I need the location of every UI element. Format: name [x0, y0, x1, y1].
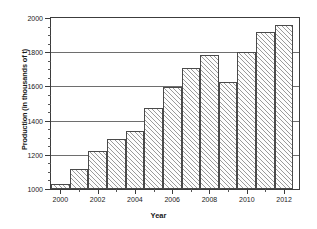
bar-2006: [163, 87, 182, 189]
x-tick-2012: [284, 189, 285, 194]
x-tick-2000: [60, 189, 61, 194]
y-tick-1000: [45, 189, 51, 190]
y-tick-label-1600: 1600: [27, 83, 43, 90]
bar-2002: [88, 151, 107, 189]
y-tick-label-1000: 1000: [27, 186, 43, 193]
bar-chart-figure: Production (in thousands of t) Year 1000…: [0, 0, 317, 229]
bar-2012: [275, 25, 294, 189]
x-tick-2010: [247, 189, 248, 194]
x-tick-minor-2007: [191, 189, 192, 192]
x-tick-2002: [98, 189, 99, 194]
bar-2001: [70, 169, 89, 189]
x-tick-2004: [135, 189, 136, 194]
y-tick-label-1200: 1200: [27, 151, 43, 158]
x-tick-minor-2003: [116, 189, 117, 192]
bar-2004: [126, 131, 145, 189]
bar-2000: [51, 184, 70, 189]
x-axis-title: Year: [0, 211, 317, 220]
x-tick-minor-2009: [228, 189, 229, 192]
bar-series: [51, 18, 299, 189]
bar-2005: [144, 108, 163, 189]
x-tick-minor-2011: [265, 189, 266, 192]
x-tick-label-2006: 2006: [164, 196, 180, 203]
y-tick-label-2000: 2000: [27, 15, 43, 22]
bar-2007: [182, 68, 201, 189]
x-tick-label-2010: 2010: [239, 196, 255, 203]
bar-2003: [107, 139, 126, 189]
x-tick-2006: [172, 189, 173, 194]
x-tick-label-2002: 2002: [90, 196, 106, 203]
y-tick-label-1400: 1400: [27, 117, 43, 124]
x-tick-label-2000: 2000: [53, 196, 69, 203]
bar-2011: [256, 32, 275, 189]
x-tick-label-2012: 2012: [276, 196, 292, 203]
plot-area: 100012001400160018002000 200020022004200…: [50, 17, 300, 190]
bar-2010: [237, 52, 256, 189]
x-tick-2008: [209, 189, 210, 194]
x-tick-minor-2001: [79, 189, 80, 192]
x-tick-minor-2005: [154, 189, 155, 192]
bar-2009: [219, 82, 238, 189]
x-tick-label-2008: 2008: [202, 196, 218, 203]
y-tick-label-1800: 1800: [27, 49, 43, 56]
x-tick-label-2004: 2004: [127, 196, 143, 203]
bar-2008: [200, 55, 219, 189]
y-axis-title: Production (in thousands of t): [20, 15, 29, 185]
